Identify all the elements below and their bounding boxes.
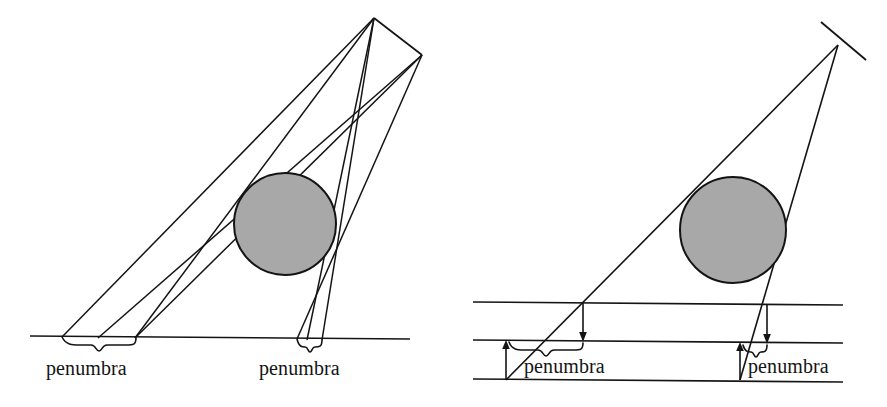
left-occluder-sphere [234, 173, 336, 275]
right-middle-plane-line [473, 340, 843, 343]
penumbra-figure: penumbra penumbra penumbra penumbra [0, 0, 887, 407]
right-occluder-sphere [680, 177, 786, 283]
right-penumbra-brace-a [509, 342, 583, 356]
figure-canvas [0, 0, 887, 407]
right-panel [473, 22, 866, 382]
left-extended-light-source-icon [374, 18, 422, 55]
right-upper-plane-line [473, 302, 843, 305]
left-penumbra-brace-a [62, 337, 136, 351]
left-ground-line [30, 336, 410, 339]
right-lower-plane-line [473, 379, 843, 382]
right-penumbra-label-a: penumbra [524, 355, 605, 378]
left-penumbra-label-b: penumbra [259, 357, 340, 380]
left-penumbra-label-a: penumbra [46, 357, 127, 380]
right-shadow-rays [506, 45, 838, 380]
right-down-arrow-left [579, 303, 587, 342]
left-rays-source-a [62, 18, 374, 340]
right-down-arrow-right [763, 305, 771, 344]
right-penumbra-label-b: penumbra [748, 355, 829, 378]
left-penumbra-brace-b [297, 339, 322, 352]
left-panel [30, 18, 422, 352]
right-up-arrow-left [502, 340, 510, 380]
right-up-arrow-right [736, 342, 744, 380]
